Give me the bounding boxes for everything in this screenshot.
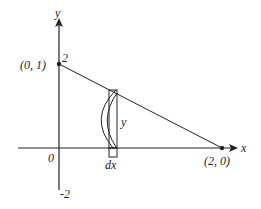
x-axis-label: x	[240, 141, 247, 155]
strip-width-label: dx	[105, 158, 117, 172]
strip-height-label: y	[120, 115, 127, 129]
diagram-canvas: y x 2 (0, 1) (2, 0) 0 -2 y dx	[0, 0, 261, 209]
y-axis-label: y	[54, 6, 61, 20]
point-0-1	[57, 62, 61, 66]
line-segment	[59, 64, 222, 148]
point-label-0-1: (0, 1)	[20, 58, 46, 72]
y-tick-bottom: -2	[60, 187, 70, 201]
y-tick-top: 2	[62, 51, 68, 65]
strip-dx-box	[109, 148, 117, 157]
point-2-0	[220, 146, 224, 150]
origin-label: 0	[48, 151, 54, 165]
point-label-2-0: (2, 0)	[204, 154, 230, 168]
